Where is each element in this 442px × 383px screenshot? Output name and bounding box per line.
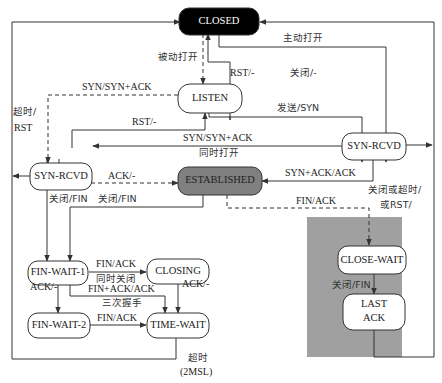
label-rst-synrcvd-listen: RST/- — [132, 116, 156, 127]
state-closing-label: CLOSING — [155, 265, 201, 276]
state-established-label: ESTABLISHED — [185, 174, 255, 185]
edge-established-finwait1 — [70, 195, 203, 261]
label-simul-open-1: SYN/SYN+ACK — [183, 132, 253, 143]
state-listen-label: LISTEN — [192, 92, 229, 103]
state-time-wait: TIME-WAIT — [147, 313, 209, 338]
label-ack: ACK/- — [108, 170, 135, 181]
label-syn-ack-ack: SYN+ACK/ACK — [285, 167, 356, 178]
label-close-fin-cw: 关闭/FIN — [332, 279, 371, 290]
tcp-state-diagram: CLOSED LISTEN SYN-RCVD SYN-RCVD ESTABLIS… — [0, 0, 442, 383]
state-last-ack-label-line2: ACK — [363, 312, 386, 323]
label-fin-ack-ack-2: 三次握手 — [102, 297, 142, 308]
label-timeout-rst-1: 超时/ — [13, 106, 37, 117]
edge-timewait-closed — [12, 22, 180, 359]
label-close-or-timeout-2: 或RST/ — [380, 199, 412, 210]
label-fin-ack-simul-1: FIN/ACK — [96, 258, 137, 269]
state-syn-rcvd-right-label: SYN-RCVD — [347, 140, 401, 151]
label-syn-syn-ack: SYN/SYN+ACK — [82, 81, 152, 92]
label-close-fin-1: 关闭/FIN — [49, 193, 88, 204]
label-ack-closing-tw: ACK/- — [182, 278, 209, 289]
label-send-syn: 发送/SYN — [277, 102, 319, 113]
state-fin-wait-1-label: FIN-WAIT-1 — [31, 266, 85, 277]
state-syn-rcvd-right: SYN-RCVD — [342, 133, 406, 160]
state-close-wait: CLOSE-WAIT — [338, 246, 406, 274]
state-last-ack: LAST ACK — [343, 294, 405, 330]
state-close-wait-label: CLOSE-WAIT — [341, 254, 405, 265]
state-syn-rcvd-left: SYN-RCVD — [30, 163, 92, 190]
state-last-ack-label-line1: LAST — [361, 298, 388, 309]
label-rst-listen-closed: RST/- — [230, 67, 254, 78]
state-closed-label: CLOSED — [199, 15, 240, 26]
label-close-fin-2: 关闭/FIN — [98, 193, 137, 204]
label-fin-ack-est: FIN/ACK — [296, 195, 337, 206]
label-close-listen: 关闭/- — [290, 67, 317, 78]
label-timeout-2msl-2: (2MSL) — [180, 366, 212, 378]
state-closed: CLOSED — [179, 8, 259, 35]
label-fin-ack-fw2-tw: FIN/ACK — [97, 312, 138, 323]
state-fin-wait-2: FIN-WAIT-2 — [28, 313, 90, 338]
label-timeout-2msl-1: 超时 — [188, 352, 208, 363]
state-fin-wait-2-label: FIN-WAIT-2 — [32, 319, 86, 330]
label-fin-ack-ack-1: FIN+ACK/ACK — [88, 283, 156, 294]
edge-listen-synrcvd-dashed — [48, 95, 178, 163]
label-ack-fw1-fw2: ACK/- — [30, 281, 57, 292]
label-passive-open: 被动打开 — [158, 51, 198, 62]
label-timeout-rst-2: RST — [14, 122, 32, 133]
label-active-open: 主动打开 — [283, 32, 323, 43]
state-established: ESTABLISHED — [178, 167, 262, 195]
state-listen: LISTEN — [178, 84, 242, 113]
label-close-or-timeout-1: 关闭或超时/ — [368, 184, 422, 195]
state-time-wait-label: TIME-WAIT — [150, 319, 206, 330]
state-syn-rcvd-left-label: SYN-RCVD — [34, 170, 88, 181]
label-simul-open-2: 同时打开 — [199, 147, 239, 158]
